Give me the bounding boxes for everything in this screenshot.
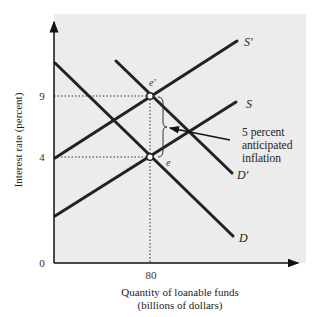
annotation-line3: inflation (242, 152, 281, 164)
annotation-line1: 5 percent (242, 126, 285, 139)
x-axis-label-line1: Quantity of loanable funds (121, 286, 239, 298)
x-axis-label-line2: (billions of dollars) (138, 299, 223, 312)
curve-label-d: D (238, 231, 248, 245)
origin-label: 0 (39, 257, 45, 269)
loanable-funds-chart: 9 4 0 80 Interest rate (percent) Quantit… (0, 0, 325, 317)
annotation-line2: anticipated (242, 139, 293, 152)
y-tick-4: 4 (39, 151, 45, 163)
y-tick-9: 9 (39, 90, 45, 102)
x-tick-80: 80 (146, 269, 158, 281)
curve-label-s-prime: S′ (244, 35, 253, 49)
y-axis-label: Interest rate (percent) (12, 92, 25, 187)
equilibrium-point-e (147, 154, 154, 161)
curve-label-s: S (246, 97, 252, 111)
point-label-e-prime: e′ (149, 77, 156, 88)
point-label-e: e (166, 157, 171, 168)
equilibrium-point-e-prime (147, 93, 154, 100)
curve-label-d-prime: D′ (236, 168, 249, 182)
